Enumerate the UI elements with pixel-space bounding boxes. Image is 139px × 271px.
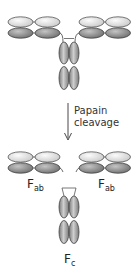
intact-right-fab-arm [75, 17, 131, 42]
cleavage-arrow [65, 103, 72, 140]
antibody-diagram [0, 0, 139, 271]
fab-right-label: Fab [98, 177, 115, 193]
intact-fc-region [59, 42, 79, 90]
arrow-caption: Papain cleavage [74, 105, 119, 129]
fab-left-label: Fab [27, 177, 44, 193]
intact-antibody [8, 17, 131, 90]
fab-left-label-main: F [27, 177, 34, 191]
fab-fragment-right [76, 152, 131, 173]
intact-left-fab-arm [8, 17, 63, 42]
arrow-caption-line2: cleavage [74, 117, 119, 129]
fc-label: Fc [64, 252, 75, 268]
fab-right-label-main: F [98, 177, 105, 191]
fab-left-label-sub: ab [34, 184, 44, 193]
fc-label-main: F [64, 252, 71, 266]
fc-fragment [59, 188, 79, 244]
arrow-caption-line1: Papain [74, 105, 119, 117]
fab-right-label-sub: ab [105, 184, 115, 193]
fc-label-sub: c [71, 259, 75, 268]
fab-fragment-left [8, 152, 63, 173]
